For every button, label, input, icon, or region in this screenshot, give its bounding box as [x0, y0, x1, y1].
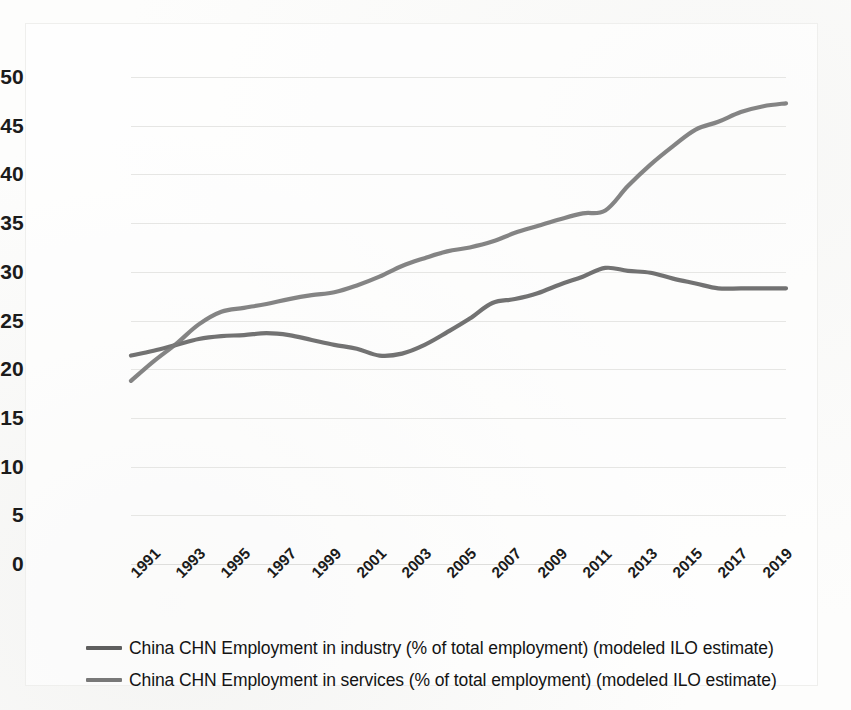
- y-tick-label-10: 10: [0, 455, 24, 479]
- plot-area: 05101520253035404550: [131, 77, 786, 564]
- legend-item-industry[interactable]: China CHN Employment in industry (% of t…: [86, 632, 826, 664]
- legend-label-industry: China CHN Employment in industry (% of t…: [129, 638, 774, 659]
- y-tick-label-20: 20: [0, 357, 24, 381]
- y-tick-label-25: 25: [0, 309, 24, 333]
- y-tick-label-30: 30: [0, 260, 24, 284]
- y-tick-label-50: 50: [0, 65, 24, 89]
- y-tick-label-45: 45: [0, 114, 24, 138]
- x-axis-labels: 1991199319951997199920012003200520072009…: [131, 569, 786, 629]
- y-tick-label-35: 35: [0, 211, 24, 235]
- legend-swatch-industry: [86, 646, 122, 650]
- y-tick-label-5: 5: [0, 503, 24, 527]
- series-lines: [131, 77, 786, 564]
- y-tick-label-0: 0: [0, 552, 24, 576]
- series-line-services: [131, 103, 786, 381]
- chart-legend: China CHN Employment in industry (% of t…: [86, 632, 826, 696]
- chart-page: 05101520253035404550 1991199319951997199…: [0, 0, 851, 710]
- legend-swatch-services: [86, 678, 122, 682]
- y-tick-label-40: 40: [0, 162, 24, 186]
- chart-frame: 05101520253035404550 1991199319951997199…: [25, 23, 818, 686]
- y-tick-label-15: 15: [0, 406, 24, 430]
- legend-item-services[interactable]: China CHN Employment in services (% of t…: [86, 664, 826, 696]
- legend-label-services: China CHN Employment in services (% of t…: [129, 670, 777, 691]
